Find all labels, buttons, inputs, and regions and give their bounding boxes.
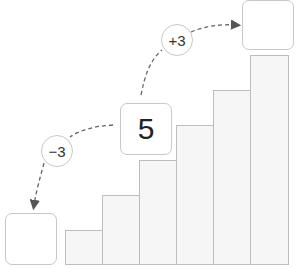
bar-2 — [102, 195, 140, 265]
bar-4 — [176, 125, 214, 265]
answer-box-upper[interactable] — [242, 0, 294, 50]
bar-1 — [65, 230, 103, 265]
arrow-down-path-2 — [34, 163, 44, 205]
arrow-down-path — [70, 125, 113, 137]
minus-three-operation: −3 — [41, 135, 73, 167]
answer-box-lower[interactable] — [5, 213, 57, 265]
plus-three-operation: +3 — [161, 24, 193, 56]
arrow-up-path-2 — [191, 25, 236, 32]
bar-5 — [213, 90, 251, 265]
arrow-up-path — [141, 50, 162, 95]
bar-6 — [250, 55, 289, 265]
bar-3 — [139, 160, 177, 265]
center-value-box: 5 — [120, 103, 172, 155]
center-value: 5 — [138, 112, 155, 146]
